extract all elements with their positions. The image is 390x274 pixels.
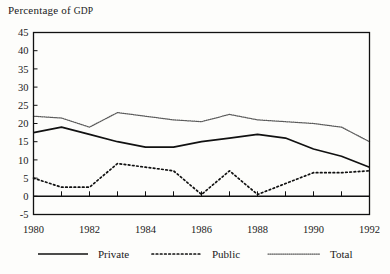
y-tick-label: 45 xyxy=(18,27,29,38)
y-tick-label: 0 xyxy=(23,191,28,202)
x-tick-label: 1990 xyxy=(303,224,324,235)
legend-label-public: Public xyxy=(212,248,240,260)
series-group xyxy=(34,113,370,195)
x-tick-label: 1984 xyxy=(135,224,157,235)
y-tick-label: 40 xyxy=(18,45,29,56)
series-line-private xyxy=(34,127,370,167)
chart-plot: 454035302520151050-5 1980198219841986198… xyxy=(0,0,390,274)
x-tick-label: 1992 xyxy=(359,224,380,235)
x-axis-labels: 1980198219841986198819901992 xyxy=(23,224,380,235)
x-tick-label: 1986 xyxy=(191,224,212,235)
y-tick-label: 35 xyxy=(18,64,29,75)
y-tick-label: 10 xyxy=(18,155,29,166)
y-tick-label: 20 xyxy=(18,118,29,129)
x-tick-label: 1988 xyxy=(247,224,268,235)
y-tick-label: 25 xyxy=(18,100,29,111)
x-tick-label: 1980 xyxy=(23,224,44,235)
y-tick-label: -5 xyxy=(20,209,29,220)
chart-legend: PrivatePublicTotal xyxy=(38,248,352,260)
y-tick-label: 5 xyxy=(23,173,28,184)
y-tick-label: 15 xyxy=(18,136,29,147)
series-line-total xyxy=(34,113,370,142)
chart-container: Percentage of GDP 454035302520151050-5 1… xyxy=(0,0,390,274)
y-axis-labels: 454035302520151050-5 xyxy=(18,27,29,220)
legend-label-total: Total xyxy=(330,248,352,260)
legend-label-private: Private xyxy=(98,248,129,260)
x-tick-label: 1982 xyxy=(79,224,100,235)
y-tick-label: 30 xyxy=(18,82,29,93)
series-line-public xyxy=(34,164,370,195)
